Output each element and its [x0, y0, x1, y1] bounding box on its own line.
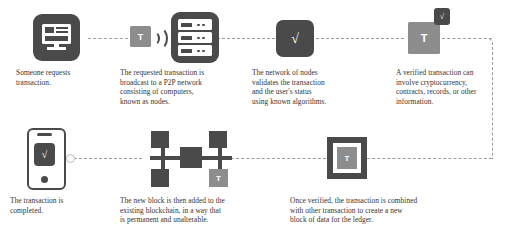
connector-step6-step7	[231, 158, 326, 159]
connector-endpoint-ring	[66, 154, 75, 163]
server-slot-1	[181, 23, 192, 27]
server-dot-1b	[202, 24, 205, 27]
connector-bottom-return	[362, 158, 492, 159]
server-dot-1a	[197, 24, 200, 27]
step-5-caption: A verified transaction can involve crypt…	[396, 68, 512, 106]
phone-speaker	[37, 133, 52, 136]
blockchain-block-top-right	[209, 131, 227, 148]
monitor-content-bar-1	[45, 27, 54, 33]
connector-step4-step5	[316, 38, 404, 39]
step-6-caption: Once verified, the transaction is combin…	[290, 196, 490, 225]
verify-checkmark-glyph: √	[276, 20, 314, 57]
connector-step7-step8	[74, 158, 142, 159]
blockchain-infographic: Someone requests transaction. T The requ…	[0, 0, 512, 249]
monitor-stand-base	[47, 47, 66, 50]
monitor-content-bar-4	[45, 36, 68, 41]
ledger-block-tile: T	[337, 147, 357, 169]
blockchain-block-center	[180, 147, 202, 168]
blockchain-block-top-left	[151, 131, 169, 148]
monitor-content-bar-2	[56, 27, 68, 29]
step-1-caption: Someone requests transaction.	[16, 68, 124, 87]
server-slot-2	[181, 36, 192, 40]
blockchain-connector-horizontal-left	[150, 156, 184, 160]
server-slot-3	[181, 49, 192, 53]
verified-transaction-tile: T	[408, 22, 440, 54]
blockchain-connector-horizontal-right	[198, 156, 232, 160]
step-4-caption: The network of nodes validates the trans…	[252, 68, 390, 106]
verified-badge-checkmark: √	[434, 8, 450, 25]
phone-checkmark-glyph: √	[34, 143, 55, 166]
step-7-caption: The new block is then added to the exist…	[120, 196, 292, 225]
blockchain-connector-vertical-left	[161, 146, 165, 171]
server-dot-2a	[197, 37, 200, 40]
server-dot-3b	[202, 50, 205, 53]
blockchain-new-block-tile: T	[209, 169, 228, 187]
server-dot-2b	[202, 37, 205, 40]
server-dot-3a	[197, 50, 200, 53]
blockchain-connector-vertical-right	[218, 146, 222, 171]
blockchain-block-bottom-left	[151, 169, 169, 187]
step-2-caption: The requested transaction is broadcast t…	[120, 68, 250, 106]
phone-home-button	[41, 176, 48, 183]
connector-step1-step2	[88, 38, 128, 39]
step-8-caption: The transaction is completed.	[10, 196, 114, 215]
connector-step3-step4	[217, 38, 275, 39]
monitor-content-bar-3	[56, 31, 68, 33]
